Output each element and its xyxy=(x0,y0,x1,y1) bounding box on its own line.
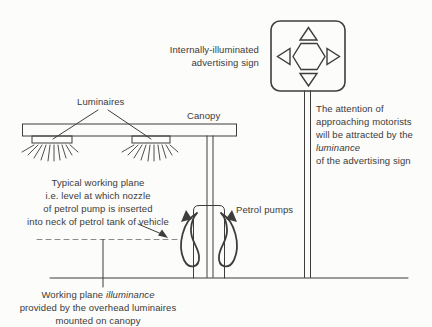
illuminance-note-line3: mounted on canopy xyxy=(5,314,191,327)
sign-hexagon-icon xyxy=(293,44,325,70)
canopy-label: Canopy xyxy=(187,109,220,122)
illuminance-note-line1-italic: illuminance xyxy=(106,289,155,300)
arrowhead-icon xyxy=(158,230,168,239)
sign-triangle-left-icon xyxy=(278,49,291,65)
sign-triangle-down-icon xyxy=(300,74,317,87)
canopy-bar xyxy=(23,124,237,136)
illuminance-note-line1: Working plane illuminance xyxy=(5,288,191,301)
working-plane-note-line2: i.e. level at which nozzle xyxy=(5,189,191,202)
sign-pole xyxy=(305,91,311,278)
light-rays-left-icon xyxy=(22,145,78,161)
sign-caption-line1: Internally-illuminated xyxy=(170,43,259,56)
petrol-pumps-label: Petrol pumps xyxy=(236,203,293,216)
sign-triangle-right-icon xyxy=(327,49,340,65)
sign-caption: Internally-illuminated advertising sign xyxy=(170,43,259,69)
petrol-station-lighting-diagram: Internally-illuminated advertising sign … xyxy=(0,0,432,327)
attention-note-line5: of the advertising sign xyxy=(316,154,413,167)
illuminance-note: Working plane illuminance provided by th… xyxy=(5,288,191,327)
light-rays-right-icon xyxy=(122,145,178,161)
sign-triangle-up-icon xyxy=(300,28,317,41)
luminaires-label: Luminaires xyxy=(77,95,124,108)
advertising-sign xyxy=(271,21,345,91)
working-plane-note-line3: of petrol pump is inserted xyxy=(5,202,191,215)
sign-caption-line2: advertising sign xyxy=(170,56,259,69)
sign-frame xyxy=(271,21,345,91)
illuminance-note-line2: provided by the overhead luminaires xyxy=(5,301,191,314)
attention-note-line3: will be attracted by the xyxy=(316,128,413,141)
canopy-structure xyxy=(23,124,237,136)
luminaire-right-icon xyxy=(132,136,170,143)
attention-note-line1: The attention of xyxy=(316,102,413,115)
working-plane-note: Typical working plane i.e. level at whic… xyxy=(5,176,191,228)
canopy-column xyxy=(207,136,213,278)
attention-note-line4: luminance xyxy=(316,141,413,154)
attention-note: The attention of approaching motorists w… xyxy=(316,102,413,167)
working-plane-note-line1: Typical working plane xyxy=(5,176,191,189)
petrol-pump-body xyxy=(194,206,225,279)
illuminance-note-line1-prefix: Working plane xyxy=(41,289,106,300)
attention-note-line2: approaching motorists xyxy=(316,115,413,128)
working-plane-note-line4: into neck of petrol tank of vehicle xyxy=(5,215,191,228)
luminaire-left-icon xyxy=(32,136,72,143)
